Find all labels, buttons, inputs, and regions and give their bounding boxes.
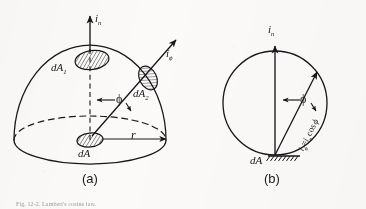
- label-r: r: [131, 129, 136, 141]
- area-element-dA-base: [76, 132, 103, 149]
- angle-phi-leader-right-b: [311, 103, 316, 111]
- panel-a-linework: [14, 16, 176, 164]
- area-element-dA1: [74, 48, 110, 72]
- figure-linework: [0, 0, 366, 209]
- label-in-b: in: [268, 24, 274, 38]
- figure-caption: Fig. 12-2. Lambert's cosine law.: [16, 201, 96, 207]
- label-i-phi-a: iϕ: [166, 48, 173, 62]
- figure-root: in dA1 dA2 iϕ ϕ r dA (a) in ϕ dA iϕ=inco…: [0, 0, 366, 209]
- panel-label-b: (b): [264, 172, 280, 185]
- label-phi-a: ϕ: [116, 93, 122, 105]
- panel-label-a: (a): [82, 172, 98, 185]
- label-in-a: in: [95, 13, 101, 27]
- label-dA-base-a: dA: [78, 148, 90, 159]
- label-dA-b: dA: [250, 155, 262, 166]
- angle-phi-leader-right: [126, 103, 131, 111]
- label-phi-b: ϕ: [300, 93, 306, 105]
- label-dA1: dA1: [51, 62, 67, 76]
- area-element-dA-surface-b: [267, 156, 301, 161]
- label-dA2: dA2: [133, 88, 149, 102]
